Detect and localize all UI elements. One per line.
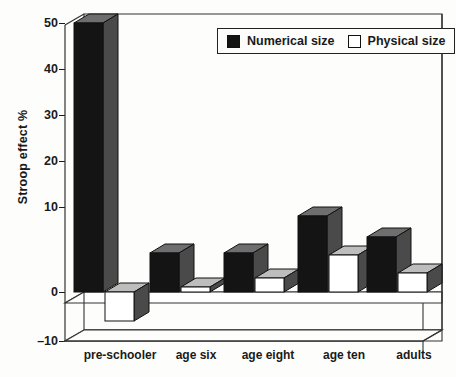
- white-square-swatch-icon: [348, 35, 361, 48]
- chart-legend: Numerical size Physical size: [217, 28, 455, 54]
- bar-series-group: [0, 0, 456, 377]
- legend-entry-numerical-size: Numerical size: [227, 34, 335, 48]
- bar-age-ten-physical-size: [329, 246, 373, 292]
- bar-pre-schooler-numerical-size: [74, 14, 118, 292]
- legend-entry-physical-size: Physical size: [348, 34, 446, 48]
- legend-label-numerical-size: Numerical size: [247, 34, 335, 48]
- stroop-effect-bar-chart: Stroop effect % 50 40 30 20 10 0 –10: [0, 0, 456, 377]
- black-square-swatch-icon: [227, 35, 240, 48]
- x-tick-label-adults: adults: [358, 348, 456, 362]
- legend-label-physical-size: Physical size: [368, 34, 446, 48]
- bar-pre-schooler-physical-size: [105, 283, 149, 321]
